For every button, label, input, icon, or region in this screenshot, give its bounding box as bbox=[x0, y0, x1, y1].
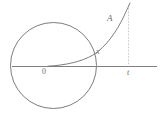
involute-curve bbox=[48, 3, 130, 66]
figure-canvas bbox=[0, 0, 164, 117]
label-x: x bbox=[96, 48, 100, 56]
geometric-figure: A x 0 t bbox=[0, 0, 164, 117]
label-A: A bbox=[107, 14, 113, 23]
label-t: t bbox=[127, 69, 129, 77]
label-origin: 0 bbox=[42, 68, 46, 76]
